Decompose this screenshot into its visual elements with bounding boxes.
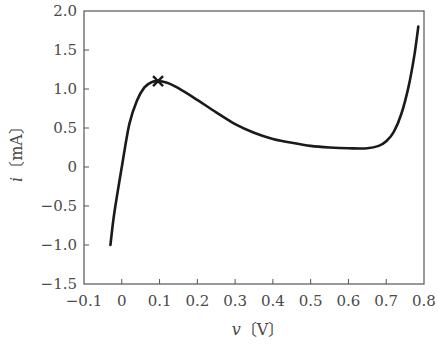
y-tick-label: −1.0 [41,236,77,254]
y-tick-label: −0.5 [41,197,77,215]
y-axis-label: i〔mA〕 [7,118,26,182]
x-tick-label: 0 [117,292,127,310]
x-tick-label: −0.1 [66,292,102,310]
x-axis-label: v〔V〕 [232,320,285,339]
iv-characteristic-chart: −0.100.10.20.30.40.50.60.70.8 2.01.51.00… [0,0,439,351]
y-tick-label: −1.5 [41,275,77,293]
x-tick-label: 0.7 [374,292,398,310]
x-tick-label: 0.2 [185,292,209,310]
y-tick-label: 0.5 [53,119,77,137]
x-tick-label: 0.5 [299,292,323,310]
x-tick-label: 0.8 [412,292,436,310]
y-tick-label: 1.0 [53,80,77,98]
x-tick-label: 0.4 [261,292,285,310]
x-axis-tick-labels: −0.100.10.20.30.40.50.60.70.8 [66,292,436,310]
y-tick-label: 2.0 [53,2,77,20]
x-axis-ticks [122,279,386,284]
y-tick-label: 0 [67,158,77,176]
y-tick-label: 1.5 [53,41,77,59]
y-axis-tick-labels: 2.01.51.00.50−0.5−1.0−1.5 [41,2,77,293]
x-tick-label: 0.6 [337,292,361,310]
peak-marker [153,76,163,86]
data-series-curve [110,27,418,245]
x-tick-label: 0.1 [148,292,172,310]
y-axis-ticks [84,50,89,245]
x-tick-label: 0.3 [223,292,247,310]
